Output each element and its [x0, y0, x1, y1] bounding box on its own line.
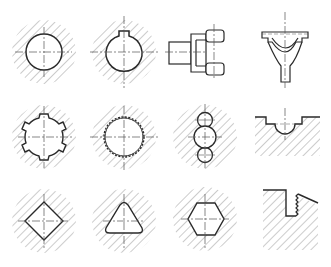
serrated-hole-section — [90, 105, 160, 170]
semicircular-groove-section — [255, 108, 320, 156]
hexagonal-hole-section — [173, 187, 237, 251]
splined-hole-section — [12, 105, 76, 169]
y-bracket-section — [262, 12, 308, 88]
square-hole-section — [12, 189, 76, 253]
triangular-hole-section — [92, 189, 156, 253]
triple-lobe-section — [173, 104, 237, 170]
keyway-hole-section — [90, 16, 160, 88]
technical-drawing: Cross-section shapes of holes and profil… — [0, 0, 331, 267]
fork-yoke-section — [165, 24, 224, 80]
round-hole-section — [12, 20, 76, 84]
threaded-step-section — [263, 190, 318, 250]
